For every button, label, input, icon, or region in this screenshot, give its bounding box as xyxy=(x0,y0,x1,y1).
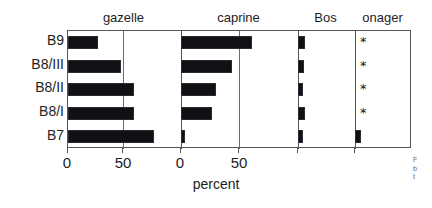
bar-caprine xyxy=(181,83,216,96)
x-tick xyxy=(180,148,181,153)
bar-bos xyxy=(298,36,305,49)
chart-row: * xyxy=(68,78,412,102)
bar-chart-figure: gazelle caprine Bos onager B9 B8/III B8/… xyxy=(0,0,432,208)
bar-bos xyxy=(298,83,303,96)
y-tick-label: B7 xyxy=(0,127,64,143)
bar-caprine xyxy=(181,60,232,73)
x-tick xyxy=(354,148,355,153)
x-tick-label: 50 xyxy=(224,154,254,172)
onager-absent-marker: * xyxy=(360,104,367,122)
bar-caprine xyxy=(181,107,212,120)
clipped-margin-line: F xyxy=(413,156,431,165)
bar-caprine xyxy=(181,36,252,49)
panel-title-onager: onager xyxy=(354,10,411,25)
chart-row: * xyxy=(68,31,412,55)
panel-title-caprine: caprine xyxy=(180,10,297,25)
x-tick xyxy=(297,148,298,153)
chart-row: * xyxy=(68,102,412,126)
y-tick-label: B9 xyxy=(0,32,64,48)
bar-gazelle xyxy=(68,36,98,49)
onager-absent-marker: * xyxy=(360,57,367,75)
x-tick-label: 50 xyxy=(108,154,138,172)
clipped-margin-line: b xyxy=(413,165,431,174)
x-axis-title: percent xyxy=(0,176,432,192)
bar-gazelle xyxy=(68,60,121,73)
bar-bos xyxy=(298,60,304,73)
bar-caprine xyxy=(181,130,185,143)
x-tick xyxy=(122,148,123,153)
bar-bos xyxy=(298,130,303,143)
y-axis-labels: B9 B8/III B8/II B8/I B7 xyxy=(0,30,64,148)
clipped-margin-line: t xyxy=(413,173,431,182)
panel-title-bos: Bos xyxy=(297,10,354,25)
x-tick xyxy=(238,148,239,153)
plot-area: * * * * xyxy=(67,30,411,148)
y-tick-label: B8/III xyxy=(0,56,64,72)
x-tick-label: 0 xyxy=(165,154,195,172)
onager-absent-marker: * xyxy=(360,80,367,98)
y-tick-label: B8/II xyxy=(0,79,64,95)
bar-gazelle xyxy=(68,107,134,120)
panel-title-gazelle: gazelle xyxy=(67,10,180,25)
chart-row: * xyxy=(68,55,412,79)
onager-absent-marker: * xyxy=(360,33,367,51)
bar-onager xyxy=(355,130,361,143)
bar-gazelle xyxy=(68,130,154,143)
bar-bos xyxy=(298,107,305,120)
x-tick xyxy=(67,148,68,153)
x-tick-label: 0 xyxy=(52,154,82,172)
y-tick-label: B8/I xyxy=(0,103,64,119)
clipped-margin-text: F b t xyxy=(413,156,431,182)
bar-gazelle xyxy=(68,83,134,96)
chart-row xyxy=(68,125,412,149)
